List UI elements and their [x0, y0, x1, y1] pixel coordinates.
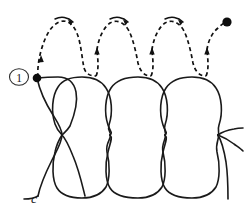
solid-lobe-upper-4	[161, 77, 222, 135]
figure-caption: c	[31, 191, 37, 206]
solid-lobe-lower-3	[106, 135, 165, 198]
dashed-final-tail	[207, 22, 226, 50]
figure-container: 1 c	[0, 0, 246, 216]
dashed-traversal-path	[38, 21, 226, 77]
start-node-dot	[33, 74, 42, 83]
dashed-arch-2	[97, 21, 151, 76]
solid-right-fork-upper	[218, 128, 243, 135]
solid-lobe-lower-4	[161, 135, 219, 198]
dashed-arch-1	[38, 21, 96, 77]
dashed-arch-3	[152, 21, 206, 76]
label-one-text: 1	[16, 72, 22, 84]
solid-meander-curve	[24, 77, 243, 199]
solid-lobe-upper-3	[106, 77, 168, 135]
start-up-arrow-icon	[38, 55, 43, 63]
solid-strand-left-tail	[37, 78, 62, 196]
up-arrow-2-icon	[149, 47, 154, 55]
apex-arrow-2-icon	[110, 17, 128, 25]
apex-arrow-3-icon	[165, 17, 183, 25]
end-node-dot	[222, 17, 231, 26]
solid-lobe-upper-2	[53, 77, 112, 135]
up-arrow-3-icon	[204, 47, 209, 55]
circled-one-label: 1	[10, 69, 29, 85]
solid-lobe-lower-2	[53, 135, 110, 198]
meander-curve-diagram: 1 c	[0, 0, 246, 216]
solid-lobe-lower-1	[62, 135, 85, 196]
up-arrow-1-icon	[94, 47, 99, 55]
